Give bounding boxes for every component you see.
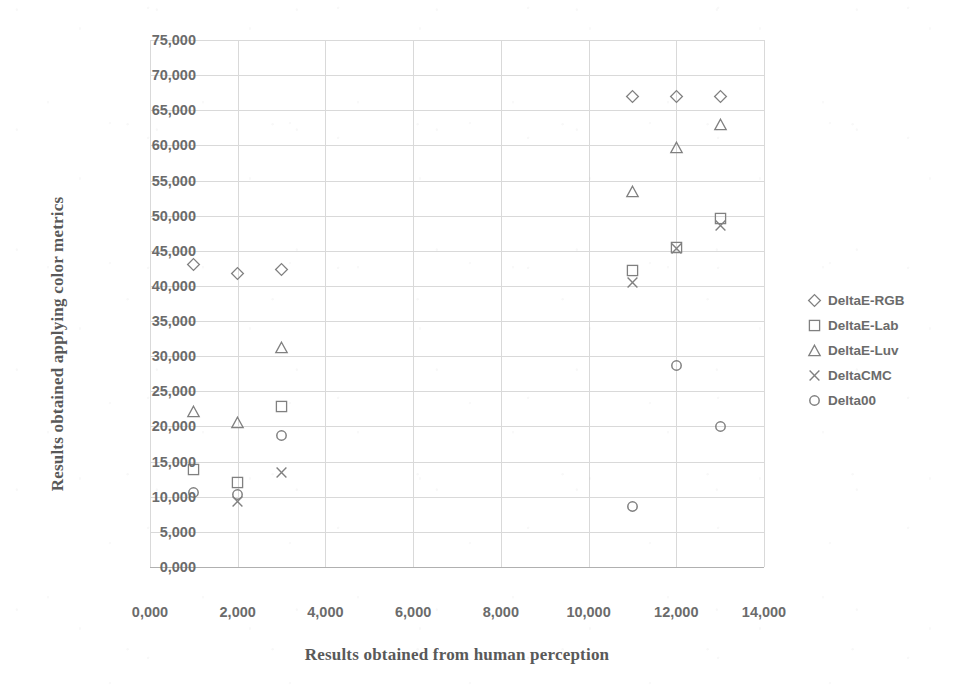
gridline-horizontal xyxy=(150,251,764,252)
gridline-horizontal xyxy=(150,462,764,463)
gridline-horizontal xyxy=(150,181,764,182)
gridline-horizontal xyxy=(150,426,764,427)
y-tick-label: 20,000 xyxy=(46,418,196,434)
legend-item-deltae-luv[interactable]: DeltaE-Luv xyxy=(808,338,968,363)
gridline-horizontal xyxy=(150,145,764,146)
y-tick-label: 65,000 xyxy=(46,102,196,118)
circle-marker-icon xyxy=(808,394,821,407)
gridline-vertical xyxy=(325,40,326,567)
y-tick-label: 5,000 xyxy=(46,524,196,540)
gridline-vertical xyxy=(676,40,677,567)
gridline-vertical xyxy=(501,40,502,567)
y-tick-label: 50,000 xyxy=(46,208,196,224)
gridline-horizontal xyxy=(150,110,764,111)
data-point-deltacmc xyxy=(714,219,727,232)
y-tick-label: 30,000 xyxy=(46,348,196,364)
x-axis-title: Results obtained from human perception xyxy=(150,645,764,665)
legend-item-deltacmc[interactable]: DeltaCMC xyxy=(808,363,968,388)
data-point-delta00 xyxy=(626,500,639,513)
data-point-deltae-rgb xyxy=(275,263,288,276)
scatter-chart: Results obtained applying color metrics … xyxy=(0,0,975,690)
gridline-horizontal xyxy=(150,497,764,498)
gridline-horizontal xyxy=(150,321,764,322)
gridline-horizontal xyxy=(150,532,764,533)
legend-item-deltae-rgb[interactable]: DeltaE-RGB xyxy=(808,288,968,313)
legend-label: DeltaE-Lab xyxy=(828,318,899,333)
gridline-horizontal xyxy=(150,216,764,217)
gridline-horizontal xyxy=(150,286,764,287)
data-point-deltae-lab xyxy=(275,400,288,413)
y-tick-label: 45,000 xyxy=(46,243,196,259)
gridline-horizontal xyxy=(150,40,764,41)
data-point-deltae-rgb xyxy=(626,90,639,103)
legend-label: DeltaCMC xyxy=(828,368,892,383)
gridline-horizontal xyxy=(150,567,764,568)
data-point-deltacmc xyxy=(275,466,288,479)
square-marker-icon xyxy=(808,319,821,332)
gridline-horizontal xyxy=(150,356,764,357)
diamond-marker-icon xyxy=(808,294,821,307)
y-tick-label: 55,000 xyxy=(46,173,196,189)
data-point-deltae-rgb xyxy=(187,258,200,271)
y-tick-label: 75,000 xyxy=(46,32,196,48)
legend-label: DeltaE-Luv xyxy=(828,343,899,358)
triangle-marker-icon xyxy=(808,344,821,357)
gridline-vertical xyxy=(238,40,239,567)
data-point-deltacmc xyxy=(626,276,639,289)
data-point-deltae-luv xyxy=(275,341,288,354)
y-tick-label: 0,000 xyxy=(46,559,196,575)
cross-marker-icon xyxy=(808,369,821,382)
gridline-horizontal xyxy=(150,75,764,76)
y-tick-label: 15,000 xyxy=(46,454,196,470)
y-tick-label: 35,000 xyxy=(46,313,196,329)
gridline-vertical xyxy=(589,40,590,567)
legend-item-delta00[interactable]: Delta00 xyxy=(808,388,968,413)
legend-label: Delta00 xyxy=(828,393,876,408)
y-tick-label: 70,000 xyxy=(46,67,196,83)
gridline-horizontal xyxy=(150,391,764,392)
data-point-deltae-lab xyxy=(714,212,727,225)
data-point-delta00 xyxy=(275,429,288,442)
y-tick-label: 10,000 xyxy=(46,489,196,505)
gridline-vertical xyxy=(764,40,765,567)
gridline-vertical xyxy=(413,40,414,567)
y-tick-label: 40,000 xyxy=(46,278,196,294)
data-point-deltae-luv xyxy=(714,118,727,131)
x-tick-label: 14,000 xyxy=(704,604,824,620)
y-tick-label: 60,000 xyxy=(46,137,196,153)
data-point-deltae-luv xyxy=(626,185,639,198)
data-point-deltae-luv xyxy=(187,405,200,418)
chart-legend: DeltaE-RGBDeltaE-LabDeltaE-LuvDeltaCMCDe… xyxy=(808,288,968,413)
data-point-deltae-lab xyxy=(626,264,639,277)
data-point-deltae-rgb xyxy=(714,90,727,103)
legend-label: DeltaE-RGB xyxy=(828,293,905,308)
legend-item-deltae-lab[interactable]: DeltaE-Lab xyxy=(808,313,968,338)
y-tick-label: 25,000 xyxy=(46,383,196,399)
plot-area xyxy=(150,40,764,567)
